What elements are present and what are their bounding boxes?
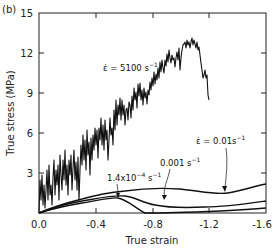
y-tick-label: 3 xyxy=(27,168,33,179)
arrowhead-icon xyxy=(162,195,167,200)
arrow-0.001 xyxy=(164,169,170,197)
x-axis-title: True strain xyxy=(125,235,179,246)
x-tick-label: -0.8 xyxy=(143,219,163,230)
y-ticks xyxy=(39,53,266,173)
x-tick-label: -0.4 xyxy=(86,219,106,230)
y-tick-label: 6 xyxy=(27,128,33,139)
annotation-0.01: ε̇ = 0.01s−1 xyxy=(196,134,246,146)
annotation-0.001: 0.001 s−1 xyxy=(160,156,200,168)
plot-frame xyxy=(39,13,266,213)
y-tick-label: 9 xyxy=(27,88,33,99)
x-tick-label: -1.6 xyxy=(252,219,272,230)
x-ticks xyxy=(96,13,209,213)
annotation-5100: ε̇ = 5100 s−1 xyxy=(103,61,158,73)
arrow-0.01 xyxy=(225,148,227,188)
x-tick-label: -1.2 xyxy=(199,219,219,230)
y-tick-label: 15 xyxy=(20,8,33,19)
stress-strain-chart: 3 6 9 12 15 0.0 -0.4 -0.8 -1.2 -1.6 True… xyxy=(0,0,278,250)
y-axis-title: True stress (MPa) xyxy=(5,70,16,156)
arrowhead-icon xyxy=(222,186,227,192)
x-tick-label: 0.0 xyxy=(31,219,47,230)
annotation-1.4e-4: 1.4x10−4 s−1 xyxy=(107,171,161,183)
y-tick-label: 12 xyxy=(20,48,33,59)
